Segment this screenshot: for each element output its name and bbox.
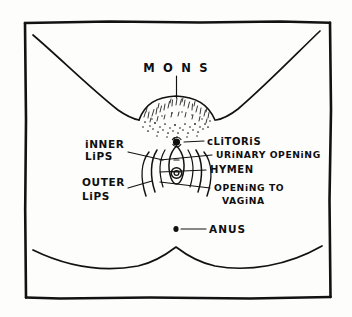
leader-urinary-opening [160,155,212,160]
anatomy-diagram-svg: M O N S iNNER LiPS OUTER LiPS cLiTORiS U… [0,0,352,317]
clitoris-mark [173,137,182,147]
diagram-labels: M O N S iNNER LiPS OUTER LiPS cLiTORiS U… [82,61,321,235]
frame-bottom-edge [26,297,331,299]
leader-lines [128,76,212,229]
label-outer-lips-line1: OUTER [82,176,125,188]
label-clitoris: cLiTORiS [207,136,261,147]
vaginal-opening-mark [171,168,182,179]
leader-opening-to-vagina [160,182,210,188]
label-outer-lips-line2: LiPS [82,190,110,202]
label-inner-lips-line2: LiPS [85,150,113,162]
leader-clitoris [184,141,204,142]
label-anus: ANUS [209,223,246,235]
diagram-container: M O N S iNNER LiPS OUTER LiPS cLiTORiS U… [0,0,352,317]
buttock-curve-line [33,246,322,269]
frame-left-edge [25,23,26,298]
label-mons: M O N S [143,61,210,75]
label-opening-to-vagina-line1: OPENiNG TO [214,182,284,193]
left-thigh-line [33,35,139,120]
frame-right-edge [330,23,332,297]
pubic-hair-texture [142,98,211,138]
anus-mark [173,226,178,232]
label-hymen: HYMEN [210,164,254,175]
frame-top-edge [25,22,330,24]
leader-outer-lips [128,181,152,188]
label-opening-to-vagina-line2: VAGiNA [222,195,265,206]
inner-lip-left-arc [151,150,157,192]
right-thigh-line [216,31,320,120]
outer-lip-left-arc [142,152,149,196]
label-urinary-opening: URiNARY OPENiNG [216,149,321,160]
inner-fold-right-arc [188,150,193,187]
inner-fold-left-arc [160,150,165,187]
label-inner-lips-line1: iNNER [85,138,124,150]
mons-region [139,96,215,138]
